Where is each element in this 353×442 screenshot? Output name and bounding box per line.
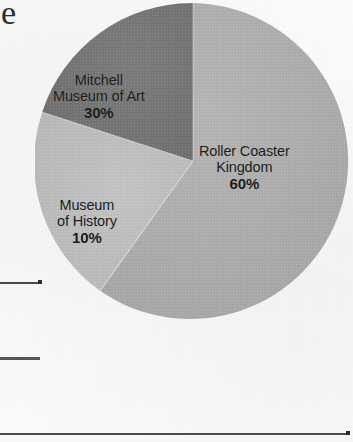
cropped-text-fragment: e <box>1 0 16 30</box>
horizontal-rule-upper-left <box>0 282 38 284</box>
pie-label-line2: Kingdom <box>199 159 290 175</box>
pie-label-roller-coaster-kingdom: Roller Coaster Kingdom 60% <box>199 143 290 193</box>
pie-label-line1: Mitchell <box>53 72 145 88</box>
pie-label-line1: Museum <box>57 197 117 213</box>
pie-label-museum-of-history: Museum of History 10% <box>57 197 117 247</box>
pie-label-value: 60% <box>199 176 290 193</box>
pie-chart <box>35 3 351 319</box>
pie-label-line2: Museum of Art <box>53 88 145 104</box>
pie-label-line2: of History <box>57 213 117 229</box>
rule-bottom-end-dot <box>346 431 350 435</box>
pie-label-mitchell-museum-of-art: Mitchell Museum of Art 30% <box>53 72 145 122</box>
pie-label-value: 30% <box>53 105 145 122</box>
pie-label-value: 10% <box>57 230 117 247</box>
horizontal-rule-bottom <box>0 433 347 435</box>
pie-label-line1: Roller Coaster <box>199 143 290 159</box>
horizontal-rule-lower-left <box>0 357 40 360</box>
